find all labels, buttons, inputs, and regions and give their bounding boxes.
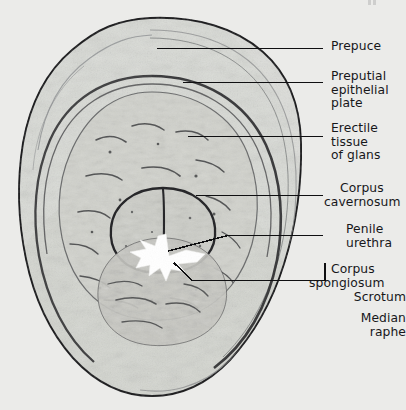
label-prepuce: Prepuce [331, 40, 381, 54]
label-corpus-cavernosum: Corpuscavernosum [340, 182, 400, 209]
label-corpus-spongiosum: Corpusspongiosum [331, 263, 384, 290]
label-erectile-tissue-of-glans: Erectiletissueof glans [331, 122, 381, 163]
label-scrotum: Scrotum [306, 291, 406, 305]
label-preputial-epithelial-plate: Preputialepithelialplate [331, 70, 389, 111]
figure-panel: Prepuce Preputialepithelialplate Erectil… [0, 0, 406, 410]
label-median-raphe: Medianraphe [306, 312, 406, 339]
label-penile-urethra: Penileurethra [346, 223, 392, 250]
